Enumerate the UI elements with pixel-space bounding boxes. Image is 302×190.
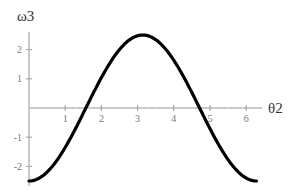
- x-axis-label: θ2: [268, 100, 283, 116]
- x-tick-label: 1: [63, 113, 68, 124]
- y-tick-label: -2: [14, 161, 22, 172]
- axes: 123456-2-112: [14, 32, 262, 186]
- x-tick-label: 4: [171, 113, 176, 124]
- y-tick-label: 2: [17, 44, 22, 55]
- line-chart: 123456-2-112 θ2 ω3: [0, 0, 302, 190]
- y-tick-label: -1: [14, 132, 22, 143]
- x-tick-label: 2: [99, 113, 104, 124]
- x-tick-label: 3: [135, 113, 140, 124]
- y-tick-label: 1: [17, 73, 22, 84]
- y-axis-label: ω3: [17, 8, 34, 24]
- x-tick-label: 6: [244, 113, 249, 124]
